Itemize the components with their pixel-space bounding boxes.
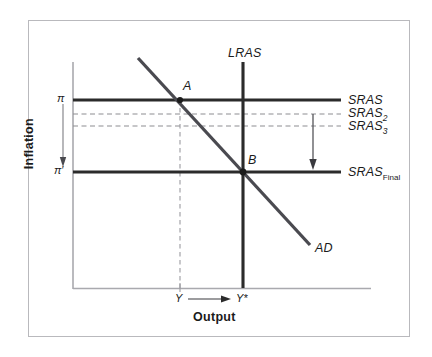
point-a-marker xyxy=(177,97,183,103)
curve-label-lras: LRAS xyxy=(228,47,261,60)
output-increase-arrow-head xyxy=(221,296,231,303)
y-axis-title: Inflation xyxy=(22,118,36,169)
x-axis-title: Output xyxy=(193,311,236,324)
curve-label-ad: AD xyxy=(315,242,333,255)
curve-label-sras-final-subscript: Final xyxy=(383,173,400,182)
curve-label-sras: SRAS xyxy=(348,94,383,107)
curve-label-sras3-text: SRAS xyxy=(348,119,383,133)
curve-ad-line xyxy=(138,58,310,245)
point-b-marker xyxy=(240,169,247,176)
curve-label-sras2-text: SRAS xyxy=(348,106,383,120)
figure-canvas: SRAS SRAS2 SRAS3 SRASFinal LRAS AD A B π… xyxy=(0,0,432,357)
y-tick-label-pi: π xyxy=(57,93,64,104)
curve-label-lras-text: LRAS xyxy=(228,46,261,60)
sras-shift-arrow-head xyxy=(309,159,316,170)
curve-label-sras-final-text: SRAS xyxy=(348,165,383,179)
point-label-a: A xyxy=(183,80,191,93)
x-tick-label-y-star: Y* xyxy=(236,293,248,304)
curve-label-ad-text: AD xyxy=(315,241,333,255)
curve-label-sras-final: SRASFinal xyxy=(348,166,400,182)
curve-label-sras-text: SRAS xyxy=(348,93,383,107)
curve-label-sras3-subscript: 3 xyxy=(383,126,388,136)
point-label-b: B xyxy=(248,154,256,167)
x-tick-label-y: Y xyxy=(175,293,182,304)
y-tick-label-pi-prime: π′ xyxy=(54,165,63,176)
curve-label-sras3: SRAS3 xyxy=(348,120,388,135)
